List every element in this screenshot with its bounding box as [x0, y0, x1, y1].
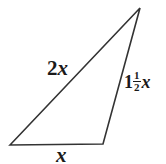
- fraction-numerator: 1: [133, 70, 141, 81]
- mixed-number: 1 1 2 x: [124, 70, 151, 93]
- side-label-right-whole: 1: [124, 73, 133, 91]
- triangle-outline: [10, 8, 140, 145]
- side-label-left-coefficient: 2: [47, 56, 58, 80]
- side-label-base: x: [56, 145, 67, 164]
- side-label-left: 2x: [47, 58, 68, 79]
- fraction-denominator: 2: [133, 81, 141, 93]
- side-label-right-variable: x: [142, 73, 151, 91]
- side-label-right: 1 1 2 x: [124, 70, 151, 93]
- fraction-one-half: 1 2: [133, 70, 141, 93]
- side-label-left-variable: x: [58, 56, 69, 80]
- triangle-figure: 2x 1 1 2 x x: [0, 0, 166, 164]
